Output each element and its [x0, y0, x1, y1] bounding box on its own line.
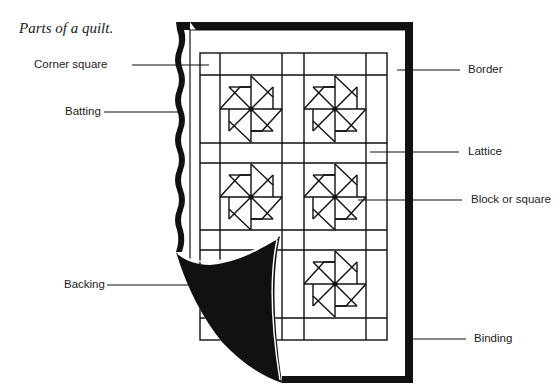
batting-edge [175, 22, 405, 260]
label-lattice: Lattice [468, 146, 502, 158]
label-border: Border [468, 64, 503, 76]
label-backing: Backing [64, 279, 105, 291]
label-corner-square: Corner square [34, 59, 108, 71]
label-batting: Batting [65, 106, 101, 118]
label-block-or-square: Block or square [471, 194, 551, 206]
backing-fold [176, 236, 282, 383]
label-binding: Binding [474, 333, 512, 345]
